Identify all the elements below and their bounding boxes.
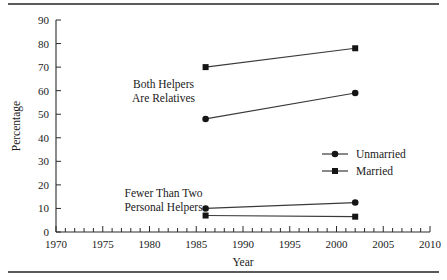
annotation-fewer-than-two: Fewer Than Two (125, 187, 203, 199)
y-tick-label: 60 (38, 85, 50, 97)
legend-marker (332, 151, 339, 158)
figure-container: 0102030405060708090 19701975198019851990… (0, 0, 447, 280)
legend-label-married: Married (356, 165, 393, 177)
x-tick-label: 1985 (185, 238, 208, 250)
x-tick-label: 2000 (326, 238, 349, 250)
y-axis-title: Percentage (10, 101, 23, 151)
x-tick-label: 1980 (139, 238, 162, 250)
x-tick-label: 1995 (279, 238, 302, 250)
legend-marker (332, 168, 338, 174)
x-tick-label: 1975 (92, 238, 115, 250)
data-point-marker (352, 199, 359, 206)
series-markers (202, 45, 358, 219)
data-point-marker (352, 45, 358, 51)
y-tick-label: 30 (38, 155, 50, 167)
data-point-marker (202, 116, 209, 123)
y-axis-tick-labels: 0102030405060708090 (38, 14, 50, 238)
y-tick-label: 40 (38, 132, 50, 144)
data-point-marker (352, 90, 359, 97)
series-lines (206, 48, 356, 216)
data-point-marker (203, 64, 209, 70)
x-axis-title: Year (232, 256, 253, 268)
x-tick-label: 2010 (419, 238, 442, 250)
series-line-unmarried (206, 203, 356, 209)
series-line-unmarried (206, 93, 356, 119)
series-line-married (206, 216, 356, 217)
y-tick-label: 20 (38, 179, 50, 191)
plot-annotations: Both HelpersAre RelativesFewer Than TwoP… (124, 78, 203, 213)
line-chart: 0102030405060708090 19701975198019851990… (0, 0, 447, 280)
chart-legend: UnmarriedMarried (322, 148, 406, 177)
data-point-marker (202, 205, 209, 212)
y-tick-label: 0 (44, 226, 50, 238)
x-tick-label: 2005 (372, 238, 395, 250)
x-tick-label: 1970 (45, 238, 68, 250)
data-point-marker (352, 214, 358, 220)
annotation-both-helpers: Are Relatives (132, 92, 195, 104)
annotation-fewer-than-two: Personal Helpers (124, 201, 203, 214)
y-tick-label: 50 (38, 108, 50, 120)
data-point-marker (203, 213, 209, 219)
y-tick-label: 70 (38, 61, 50, 73)
y-axis-ticks (56, 20, 61, 232)
x-axis-tick-labels: 197019751980198519901995200020052010 (45, 238, 442, 250)
y-tick-label: 80 (38, 38, 50, 50)
legend-label-unmarried: Unmarried (356, 148, 406, 160)
y-tick-label: 10 (38, 202, 50, 214)
axis-lines (56, 20, 430, 232)
x-tick-label: 1990 (232, 238, 255, 250)
annotation-both-helpers: Both Helpers (133, 78, 195, 91)
series-line-married (206, 48, 356, 67)
y-tick-label: 90 (38, 14, 50, 26)
